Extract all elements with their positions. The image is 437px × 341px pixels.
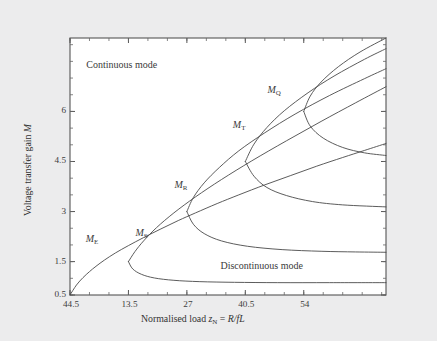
- annotation-discontinuous-mode: Discontinuous mode: [220, 260, 303, 271]
- y-axis-title: Voltage transfer gain M: [22, 80, 33, 260]
- x-tick-label-1: 13.5: [117, 299, 141, 309]
- curve-label-m-t: MT: [233, 119, 246, 130]
- y-tick-label-3: 4.5: [42, 155, 66, 165]
- x-tick-label-2: 27: [176, 299, 200, 309]
- x-axis-title: Normalised load zN = R/fL: [141, 313, 245, 324]
- curve-label-subscript: Q: [276, 89, 281, 97]
- curve-label-m-r: MR: [174, 179, 187, 190]
- curve-label-symbol: M: [267, 84, 275, 95]
- curve-label-subscript: T: [241, 124, 245, 132]
- curve-label-m-s: MS: [135, 227, 147, 238]
- y-tick-label-1: 1.5: [42, 256, 66, 266]
- x-axis-title-expression: R/fL: [228, 313, 245, 324]
- curve-label-symbol: M: [174, 179, 182, 190]
- curve-label-symbol: M: [135, 227, 143, 238]
- plot-area-background: [70, 38, 386, 295]
- x-tick-label-4: 54: [293, 299, 317, 309]
- figure-container: Voltage transfer gain M Normalised load …: [0, 0, 437, 341]
- curve-label-m-e: ME: [86, 233, 99, 244]
- curve-label-m-q: MQ: [267, 84, 280, 95]
- curve-label-subscript: R: [183, 184, 188, 192]
- curve-label-subscript: E: [94, 238, 98, 246]
- y-tick-label-2: 3: [42, 206, 66, 216]
- x-tick-label-0: 44.5: [59, 299, 83, 309]
- y-axis-title-wrapper: Voltage transfer gain M: [22, 80, 36, 260]
- y-tick-label-0: 0.5: [42, 289, 66, 299]
- y-tick-label-4: 6: [42, 105, 66, 115]
- x-axis-title-subscript: N: [212, 318, 217, 326]
- y-axis-title-variable: M: [22, 124, 33, 132]
- x-tick-label-3: 40.5: [234, 299, 258, 309]
- annotation-continuous-mode: Continuous mode: [86, 59, 157, 70]
- curve-label-symbol: M: [233, 119, 241, 130]
- curve-label-subscript: S: [144, 232, 148, 240]
- curve-label-symbol: M: [86, 233, 94, 244]
